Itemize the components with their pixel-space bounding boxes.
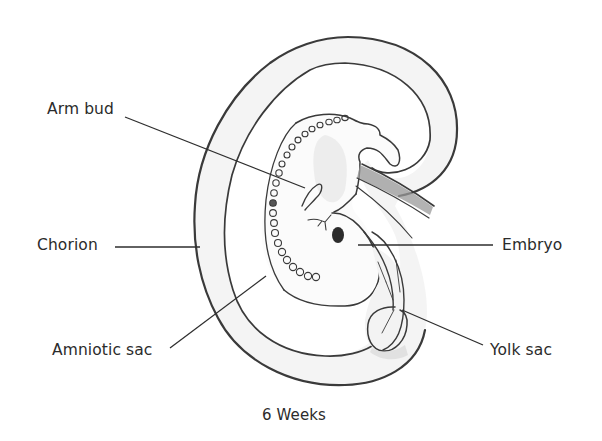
label-embryo: Embryo <box>502 238 562 254</box>
diagram-drawing <box>0 0 602 441</box>
label-yolk-sac: Yolk sac <box>490 343 552 359</box>
embryo-diagram: Arm bud Chorion Amniotic sac Embryo Yolk… <box>0 0 602 441</box>
label-arm-bud: Arm bud <box>47 102 114 118</box>
diagram-caption: 6 Weeks <box>262 408 326 423</box>
label-chorion: Chorion <box>37 238 98 254</box>
label-amniotic-sac: Amniotic sac <box>52 343 152 359</box>
embryo-eye <box>332 227 344 243</box>
